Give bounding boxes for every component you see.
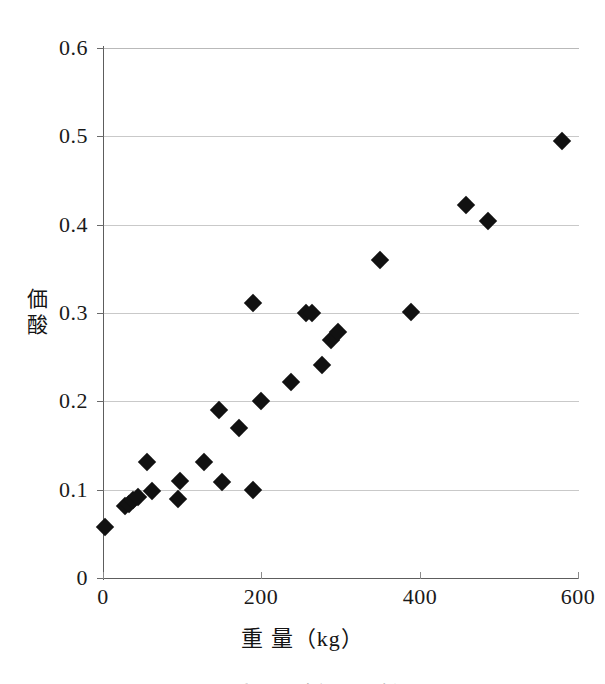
data-point-marker <box>244 480 262 498</box>
data-point-marker <box>252 392 270 410</box>
x-axis-title: 重 量（kg） <box>0 620 605 652</box>
x-axis-tick <box>578 572 579 579</box>
y-axis-tick-label: 0.1 <box>28 479 88 501</box>
y-axis-tick-label: 0.5 <box>28 125 88 147</box>
data-point-marker <box>169 490 187 508</box>
y-axis-title-char-1: 価 <box>22 286 52 312</box>
x-axis-tick-label: 200 <box>221 586 301 608</box>
data-point-marker <box>210 401 228 419</box>
data-point-marker <box>243 294 261 312</box>
x-axis-tick-label: 400 <box>380 586 460 608</box>
scatter-chart-figure: 00.10.20.30.40.50.6 0200400600 価 酸 重 量（k… <box>0 0 605 684</box>
y-axis-title: 価 酸 <box>22 286 52 339</box>
plot-area <box>103 48 578 578</box>
x-axis-line <box>102 578 579 579</box>
data-point-marker <box>371 251 389 269</box>
y-axis-title-char-2: 酸 <box>22 312 52 338</box>
y-axis-tick-label: 0.4 <box>28 214 88 236</box>
data-point-marker <box>95 518 113 536</box>
y-axis-tick-label: 0.6 <box>28 37 88 59</box>
data-point-marker <box>479 212 497 230</box>
data-point-marker <box>195 453 213 471</box>
x-axis-tick-label: 600 <box>538 586 605 608</box>
data-point-marker <box>312 356 330 374</box>
data-point-marker <box>213 473 231 491</box>
data-point-marker <box>456 196 474 214</box>
data-point-marker <box>402 303 420 321</box>
y-axis-tick-label: 0.2 <box>28 390 88 412</box>
data-point-marker <box>171 472 189 490</box>
figure-caption-cutoff: 図 重量と酸価の関係 <box>0 678 605 684</box>
data-point-marker <box>553 132 571 150</box>
data-point-marker <box>230 419 248 437</box>
data-point-marker <box>137 453 155 471</box>
data-point-marker <box>282 373 300 391</box>
x-axis-tick-label: 0 <box>63 586 143 608</box>
